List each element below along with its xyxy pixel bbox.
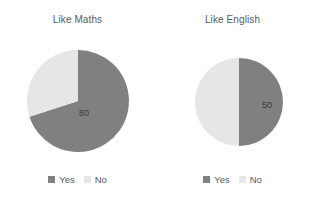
- pie-chart-figure: Like Maths 80 Yes No Like English: [0, 0, 310, 203]
- legend-swatch-no-icon: [239, 176, 246, 183]
- chart-panel-like-english: Like English 50 Yes No: [155, 0, 310, 203]
- pie-slice-yes: [239, 58, 283, 146]
- data-label-like-maths: 80: [79, 108, 89, 118]
- legend-swatch-no-icon: [84, 176, 91, 183]
- chart-panel-like-maths: Like Maths 80 Yes No: [0, 0, 155, 203]
- legend-item-no[interactable]: No: [84, 175, 107, 185]
- pie-chart-like-maths: [27, 50, 129, 152]
- chart-title-like-english: Like English: [155, 14, 310, 25]
- legend-like-maths: Yes No: [0, 175, 155, 185]
- legend-label-yes: Yes: [214, 175, 230, 185]
- legend-item-yes[interactable]: Yes: [48, 175, 75, 185]
- chart-title-like-maths: Like Maths: [0, 14, 155, 25]
- legend-label-no: No: [250, 175, 262, 185]
- pie-slice-no: [195, 58, 239, 146]
- legend-item-yes[interactable]: Yes: [203, 175, 230, 185]
- legend-label-yes: Yes: [59, 175, 75, 185]
- legend-label-no: No: [95, 175, 107, 185]
- legend-swatch-yes-icon: [203, 176, 210, 183]
- data-label-like-english: 50: [262, 100, 272, 110]
- legend-like-english: Yes No: [155, 175, 310, 185]
- legend-item-no[interactable]: No: [239, 175, 262, 185]
- legend-swatch-yes-icon: [48, 176, 55, 183]
